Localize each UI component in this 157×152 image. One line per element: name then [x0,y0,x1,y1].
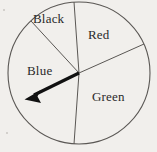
scan-speck [3,9,5,11]
sector-label-green: Green [92,89,125,105]
divider-black-red [74,2,79,73]
sector-label-black: Black [33,11,64,27]
divider-red-green [79,44,144,73]
sector-label-blue: Blue [27,63,52,79]
divider-blue-green [74,73,79,144]
spinner-arrow-head [25,91,42,104]
scan-speck [6,132,8,134]
sector-label-red: Red [88,27,110,43]
spinner-diagram [0,0,157,152]
